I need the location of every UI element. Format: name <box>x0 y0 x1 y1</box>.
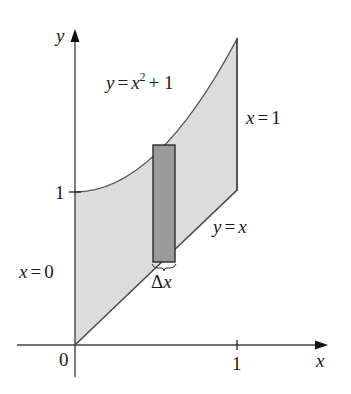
x-axis-label: x <box>315 350 325 371</box>
y-axis-label: y <box>54 25 65 46</box>
lower-line-label: y=x <box>211 216 247 237</box>
origin-label: 0 <box>59 349 69 370</box>
y-tick-label-1: 1 <box>55 182 65 203</box>
x-axis-arrow-icon <box>315 341 328 350</box>
x-tick-label-1: 1 <box>232 353 242 374</box>
y-axis-arrow-icon <box>71 29 80 42</box>
right-boundary-label: x=1 <box>245 107 281 128</box>
delta-x-label: Δx <box>151 271 172 292</box>
region-between-curves-diagram: y x 0 1 1 y=x2+ 1 x=1 y=x x=0 Δx <box>0 0 351 394</box>
upper-curve-label: y=x2+ 1 <box>104 70 174 93</box>
approximating-rectangle <box>153 145 175 262</box>
left-boundary-label: x=0 <box>18 261 54 282</box>
